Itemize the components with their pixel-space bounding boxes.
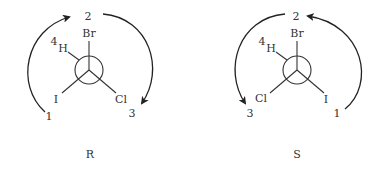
s-diagram: Br 2 H 4 Cl 3 I 1 S <box>235 10 361 161</box>
configuration-label-r: R <box>86 148 95 161</box>
atom-top-label: Br <box>290 27 304 40</box>
atom-lower-left-label: Cl <box>255 92 267 105</box>
rotation-arrow-right-arc <box>103 14 153 103</box>
rotation-arrow-left-arc <box>28 17 69 112</box>
priority-lower-left-label: 3 <box>247 107 254 120</box>
priority-lower-left-label: 1 <box>46 110 53 123</box>
priority-lower-right-label: 3 <box>129 107 136 120</box>
configuration-label-s: S <box>293 148 301 161</box>
atom-upper-left-label: H <box>266 42 276 55</box>
priority-upper-left-label: 4 <box>51 35 58 48</box>
rotation-arrow-right-arc <box>308 16 362 109</box>
atom-lower-right-label: I <box>324 93 328 106</box>
newman-projection-figure: Br 2 H 4 I 1 Cl 3 R Br 2 H 4 Cl 3 I 1 S <box>0 0 381 170</box>
atom-lower-left-label: I <box>54 93 58 106</box>
bond-upper-left <box>276 52 287 60</box>
bond-upper-left <box>68 52 79 60</box>
priority-upper-left-label: 4 <box>259 35 266 48</box>
priority-top-label: 2 <box>293 10 300 23</box>
priority-lower-right-label: 1 <box>334 107 341 120</box>
r-diagram: Br 2 H 4 I 1 Cl 3 R <box>28 10 153 161</box>
rotation-arrow-left-arc <box>235 14 285 103</box>
atom-upper-left-label: H <box>58 42 68 55</box>
atom-top-label: Br <box>82 27 96 40</box>
atom-lower-right-label: Cl <box>115 93 127 106</box>
priority-top-label: 2 <box>85 10 92 23</box>
